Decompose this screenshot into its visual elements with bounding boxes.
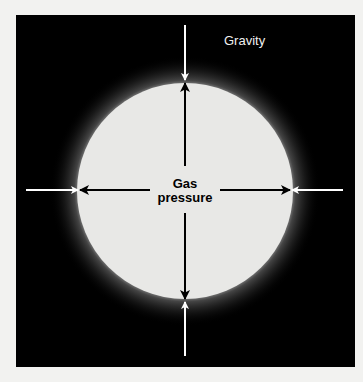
gas-pressure-line2: pressure <box>150 191 220 205</box>
gas-pressure-line1: Gas <box>150 177 220 191</box>
gravity-label: Gravity <box>224 34 265 48</box>
gas-pressure-label: Gas pressure <box>150 177 220 205</box>
